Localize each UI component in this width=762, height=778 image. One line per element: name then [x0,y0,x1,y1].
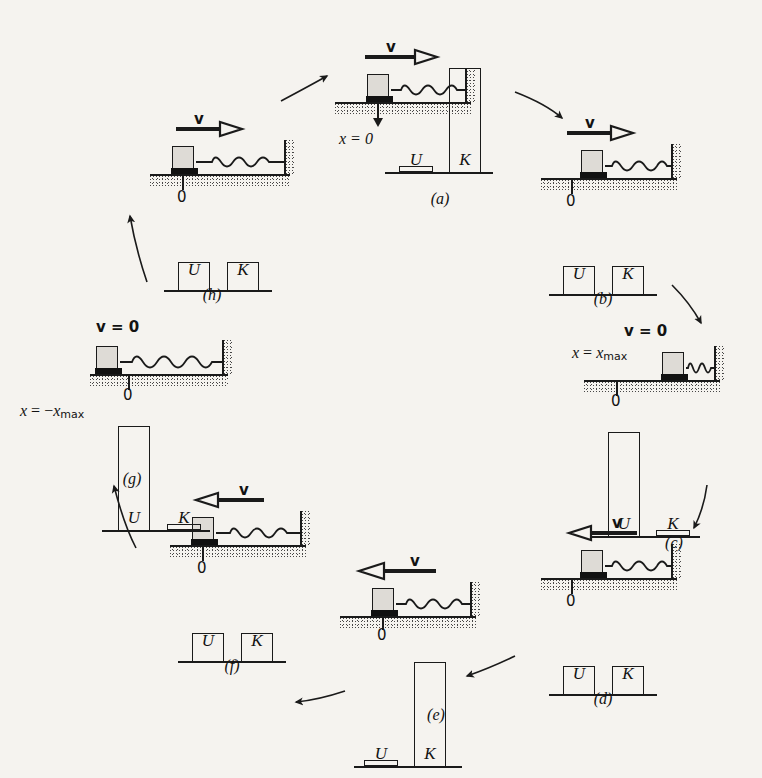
block [96,346,118,370]
velocity-arrow-right-icon [174,114,268,138]
ground-hatching [541,180,677,190]
panel-e-velocity: v [358,556,452,582]
bar-label-U: U [195,631,221,651]
ground-hatching [90,376,228,386]
spring [605,156,673,176]
arrow-b-to-c [672,285,701,323]
block [172,146,194,170]
position-var: x [572,344,579,361]
panel-e-chart: U K [354,638,462,768]
panel-c-scene: 0 [584,346,724,388]
wall-hatching [673,144,682,180]
velocity-arrow-right-icon [565,118,659,142]
position-var: x [20,402,27,419]
position-eq: = [31,402,40,419]
bar-label-U: U [403,150,429,170]
ground-hatching [541,580,677,590]
panel-e-caption: (e) [416,706,456,724]
position-sign: − [44,402,53,419]
chart-axis [385,172,493,174]
panel-b-chart: U K [549,206,657,296]
panel-b-velocity: v [565,118,659,144]
position-label: x = −xmax [20,402,84,421]
panel-d-caption: (d) [583,690,623,708]
ground-hatching [340,618,476,628]
spring [216,523,302,543]
spring [686,358,714,378]
panel-h-velocity: v [174,114,268,140]
bar-label-K: K [417,744,443,764]
bar-label-U: U [566,664,592,684]
panel-h-scene: 0 [150,140,295,182]
panel-a-chart: U K [385,44,493,174]
block [662,352,684,376]
bar-label-K: K [452,150,478,170]
velocity-label: v [239,483,249,497]
bar-label-U: U [368,744,394,764]
panel-h-caption: (h) [192,286,232,304]
bar-label-U: U [566,264,592,284]
panel-c-velocity: v = 0 [624,322,667,340]
panel-g-velocity: v = 0 [96,318,139,336]
wall-hatching [302,511,311,547]
panel-h-chart: U K [164,202,272,292]
origin-tick-arrow-icon [372,118,384,128]
position-label: x = 0 [339,130,373,148]
panel-g-chart: U K [102,402,210,532]
chart-axis [354,766,462,768]
spring [196,152,286,172]
arrow-h-to-a [281,76,327,101]
arrow-a-to-b [515,92,562,118]
velocity-label: v [410,554,420,568]
velocity-arrow-left-icon [358,556,452,580]
velocity-label: v = 0 [96,318,139,336]
wall-hatching [472,582,481,618]
bar-label-K: K [615,264,641,284]
panel-e-scene: 0 [340,582,480,624]
panel-b-caption: (b) [583,290,623,308]
position-label-text: x = 0 [339,130,373,147]
chart-axis [102,530,210,532]
wall-hatching [224,340,233,376]
bar-label-K: K [615,664,641,684]
velocity-label: v [612,516,622,530]
arrow-d-to-e [467,656,515,676]
panel-g-caption: (g) [112,470,152,488]
ground-hatching [170,547,306,557]
panel-d-chart: U K [549,606,657,696]
panel-d-velocity: v [567,518,661,544]
block [581,550,603,574]
spring [396,594,472,614]
wall-hatching [716,346,725,382]
block [372,588,394,612]
spring [605,556,673,576]
bar-label-U: U [121,508,147,528]
arrow-e-to-f [296,691,345,702]
velocity-label: v [194,112,204,126]
block [581,150,603,174]
panel-d-scene: 0 [541,544,681,586]
bar-label-K: K [660,514,686,534]
bar-label-K: K [244,631,270,651]
panel-g-scene: 0 [90,340,240,382]
wall-hatching [673,544,682,580]
ground-hatching [150,176,290,186]
wall-hatching [286,140,295,176]
bar-label-K: K [230,260,256,280]
bar-label-K: K [171,508,197,528]
velocity-label: v [585,116,595,130]
velocity-label: v = 0 [624,322,667,340]
position-subscript: max [60,408,84,421]
panel-b-scene: 0 [541,144,681,186]
spring [120,352,224,372]
panel-f-chart: U K [178,573,286,663]
panel-f-caption: (f) [212,657,252,675]
arrow-g-to-h [130,216,147,282]
figure-canvas: v x = 0 U K (a [0,0,762,778]
bar-label-U: U [181,260,207,280]
panel-a-caption: (a) [420,190,460,208]
ground-hatching [584,382,720,392]
